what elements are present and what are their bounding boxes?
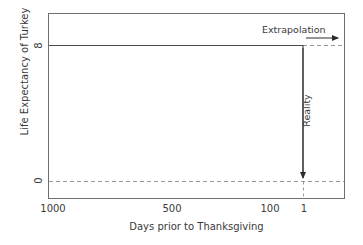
reality-annotation-label: Reality xyxy=(301,94,312,126)
chart-figure: Life Expectancy of Turkey 8 0 1000 500 1… xyxy=(0,0,363,245)
life-expectancy-series-line xyxy=(49,46,303,177)
extrapolation-annotation-label: Extrapolation xyxy=(262,24,326,35)
